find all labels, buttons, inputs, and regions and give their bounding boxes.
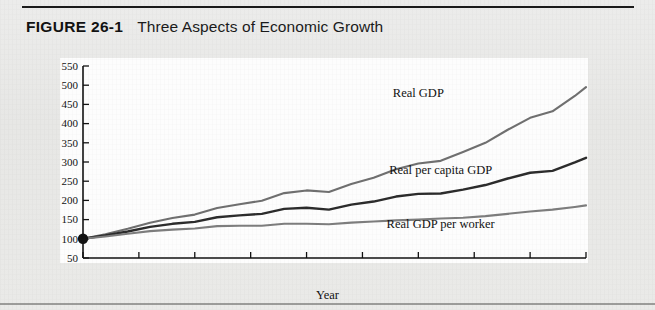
footer-divider [0,303,655,305]
base-year-dot [78,234,88,244]
y-axis-tick-label: 350 [62,137,79,149]
y-axis-tick-label: 100 [62,233,79,245]
y-axis-tick-label: 250 [62,175,79,187]
x-axis-title: Year [0,288,655,303]
y-axis-tick-label: 400 [62,117,79,129]
y-axis-tick-label: 50 [67,252,79,263]
y-axis-tick-label: 150 [62,213,79,225]
line-chart: 5010015020025030035040045050055019601965… [60,58,588,263]
data-series-line [83,87,586,239]
figure-container: FIGURE 26-1 Three Aspects of Economic Gr… [0,0,655,310]
figure-number: FIGURE 26-1 [26,18,123,36]
y-axis-tick-label: 300 [62,156,79,168]
y-axis-tick-label: 500 [62,79,79,91]
data-series-line [83,158,586,239]
figure-header: FIGURE 26-1 Three Aspects of Economic Gr… [26,18,383,36]
y-axis-title: Indexes: 1960 = 100 [0,0,2,78]
header-divider [22,6,634,8]
series-annotation-label: Real GDP per worker [387,217,496,231]
plot-area: 5010015020025030035040045050055019601965… [60,58,588,263]
data-series-line [83,205,586,238]
figure-title: Three Aspects of Economic Growth [137,18,383,36]
y-axis-tick-label: 550 [62,60,79,72]
y-axis-tick-label: 450 [62,98,79,110]
series-annotation-label: Real per capita GDP [389,163,492,177]
series-annotation-label: Real GDP [393,86,444,100]
y-axis-tick-label: 200 [62,194,79,206]
